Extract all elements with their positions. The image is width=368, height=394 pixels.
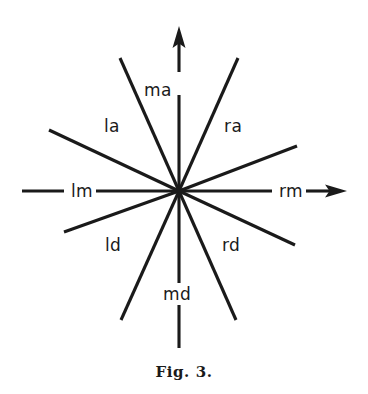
spoke-line-la (120, 58, 179, 191)
spoke-label-ra: ra (224, 118, 242, 135)
figure-container: ma la ra lm rm ld rd md Fig. 3. (0, 0, 368, 394)
figure-caption: Fig. 3. (0, 365, 368, 380)
spoke-label-rm: rm (276, 182, 306, 201)
spoke-label-rd: rd (222, 237, 240, 254)
spoke-label-ld: ld (105, 237, 121, 254)
spoke-label-lm: lm (68, 182, 96, 201)
radial-diagram-svg (0, 0, 368, 394)
spoke-label-la: la (104, 118, 120, 135)
spoke-label-md: md (160, 285, 194, 304)
spoke-label-ma: ma (144, 82, 172, 99)
